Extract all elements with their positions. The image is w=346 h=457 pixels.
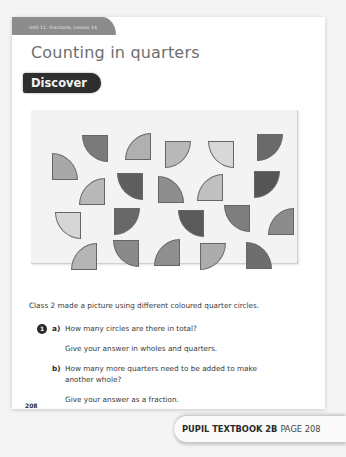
quarter-circle-shape	[246, 242, 272, 269]
quarter-circle-shape	[125, 133, 151, 160]
part-b-instruction: Give your answer as a fraction.	[65, 395, 179, 404]
quarter-circle-shape	[113, 240, 139, 267]
unit-label: Unit 11: Fractions, Lesson 14	[29, 25, 97, 30]
quarter-circle-shape	[55, 212, 81, 239]
quarter-circle-shape	[197, 174, 223, 201]
part-b-question-line1: How many more quarters need to be added …	[65, 364, 257, 373]
quarter-circle-shape	[208, 141, 234, 168]
quarter-circle-shape	[254, 171, 280, 198]
part-b-question-line2: another whole?	[65, 375, 121, 384]
quarter-circle-shape	[200, 243, 226, 270]
intro-text: Class 2 made a picture using different c…	[29, 301, 259, 310]
quarter-circles-picture	[31, 110, 298, 264]
quarter-circle-shape	[268, 208, 294, 235]
part-a-label: a)	[52, 324, 60, 333]
reference-book: PUPIL TEXTBOOK 2B	[182, 424, 277, 434]
quarter-circle-shape	[82, 135, 108, 162]
quarter-circle-shape	[117, 173, 143, 200]
quarter-circle-shape	[224, 205, 250, 232]
textbook-page: Unit 11: Fractions, Lesson 14 Counting i…	[12, 17, 325, 409]
question-number-badge: 1	[37, 324, 47, 334]
quarter-circle-shape	[71, 243, 97, 270]
reference-page: PAGE 208	[280, 424, 320, 434]
quarter-circle-shape	[158, 176, 184, 203]
quarter-circle-shape	[257, 134, 283, 161]
quarter-circle-shape	[154, 239, 180, 266]
discover-badge: Discover	[23, 73, 101, 93]
part-a-question: How many circles are there in total?	[65, 324, 197, 333]
part-b-label: b)	[52, 364, 61, 373]
page-title: Counting in quarters	[31, 43, 200, 62]
quarter-circle-shape	[79, 178, 105, 205]
quarter-circle-shape	[52, 153, 78, 180]
unit-tab: Unit 11: Fractions, Lesson 14	[12, 17, 116, 35]
part-a-instruction: Give your answer in wholes and quarters.	[65, 344, 217, 353]
page-number: 208	[25, 402, 38, 409]
quarter-circle-shape	[165, 141, 191, 168]
textbook-reference-tab: PUPIL TEXTBOOK 2BPAGE 208	[174, 416, 346, 442]
quarter-circle-shape	[114, 208, 140, 235]
quarter-circle-shape	[178, 210, 204, 237]
